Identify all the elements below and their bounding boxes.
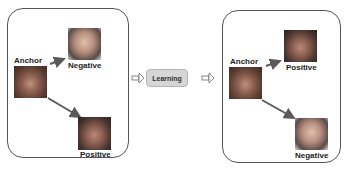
anchor-label-right: Anchor (230, 57, 258, 66)
arrow-anchor-to-positive-right (266, 61, 280, 66)
learning-label: Learning (152, 75, 182, 82)
negative-face-image-left (68, 28, 101, 60)
positive-face-image-left (78, 117, 111, 150)
negative-label-left: Negative (68, 61, 101, 70)
anchor-label-left: Anchor (14, 56, 42, 65)
flow-arrow-icon-right (202, 73, 214, 83)
negative-label-right: Negative (295, 151, 328, 160)
learning-box: Learning (146, 69, 188, 87)
anchor-face-image-right (229, 67, 262, 99)
positive-label-left: Positive (80, 150, 111, 159)
arrow-anchor-to-negative-right (262, 100, 294, 118)
anchor-face-image-left (14, 66, 47, 98)
arrow-anchor-to-negative-left (50, 59, 64, 64)
arrow-anchor-to-positive-left (48, 98, 80, 117)
flow-arrow-icon-left (132, 73, 144, 83)
negative-face-image-right (295, 118, 328, 150)
positive-label-right: Positive (286, 63, 317, 72)
positive-face-image-right (284, 30, 317, 62)
